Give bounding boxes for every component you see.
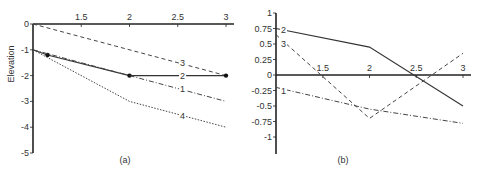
series-label: 2 (180, 71, 185, 81)
series-3-line (33, 24, 226, 76)
series-4-line (33, 50, 226, 127)
x-tick-label: 3 (460, 63, 465, 73)
x-tick-label: 2 (127, 12, 132, 22)
y-tick-label: 0 (24, 19, 29, 29)
series-label: 3 (281, 39, 286, 49)
x-tick-label: 1.5 (316, 63, 329, 73)
chart-caption: (a) (120, 155, 131, 165)
y-tick-label: -0.75 (251, 117, 272, 127)
chart-b: 1.522.5310.750.50.250-0.25-0.5-0.75-1231… (251, 8, 471, 165)
series-label: 2 (281, 25, 286, 35)
y-tick-label: 0 (267, 70, 272, 80)
y-tick-label: -2 (21, 71, 29, 81)
x-tick-label: 3 (223, 12, 228, 22)
y-tick-label: -1 (21, 45, 29, 55)
y-tick-label: -1 (264, 132, 272, 142)
chart-a: 1.522.530-1-2-3-4-5Elevation3214(a) (6, 12, 234, 165)
x-tick-label: 2.5 (171, 12, 184, 22)
y-tick-label: 1 (267, 8, 272, 18)
y-axis-label: Elevation (6, 45, 16, 82)
y-tick-label: -3 (21, 96, 29, 106)
series-label: 4 (180, 111, 185, 121)
y-tick-label: -0.5 (256, 101, 272, 111)
data-point-marker (224, 73, 228, 77)
y-tick-label: 0.75 (254, 24, 272, 34)
x-tick-label: 2.5 (410, 63, 423, 73)
y-tick-label: -4 (21, 122, 29, 132)
y-tick-label: 0.5 (259, 39, 272, 49)
series-2-line (33, 50, 226, 76)
series-label: 3 (180, 58, 185, 68)
series-label: 1 (281, 86, 286, 96)
figure: 1.522.530-1-2-3-4-5Elevation3214(a) 1.52… (0, 0, 481, 173)
x-tick-label: 1.5 (75, 12, 88, 22)
y-tick-label: -0.25 (251, 86, 272, 96)
chart-caption: (b) (338, 155, 349, 165)
series-label: 1 (180, 84, 185, 94)
x-tick-label: 2 (367, 63, 372, 73)
y-tick-label: 0.25 (254, 55, 272, 65)
y-tick-label: -5 (21, 148, 29, 158)
series-1-line (276, 87, 463, 123)
